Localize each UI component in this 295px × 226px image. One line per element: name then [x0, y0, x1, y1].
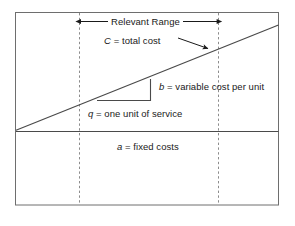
fixed-costs-text: fixed costs — [133, 141, 178, 152]
variable-cost-text: variable cost per unit — [175, 81, 264, 92]
relevant-range-label: Relevant Range — [108, 16, 183, 27]
fixed-costs-label: a = fixed costs — [117, 141, 179, 152]
variable-cost-label: b = variable cost per unit — [159, 81, 264, 92]
total-cost-variable: C — [104, 35, 111, 46]
relevant-range-text: Relevant Range — [111, 16, 180, 27]
cost-function-diagram: Relevant Range C = total cost b = variab… — [0, 0, 295, 226]
total-cost-label: C = total cost — [104, 35, 160, 46]
total-cost-text: total cost — [122, 35, 161, 46]
one-unit-label: q = one unit of service — [88, 108, 182, 119]
slope-triangle — [97, 79, 151, 101]
total-cost-leader-line — [178, 38, 208, 49]
one-unit-text: one unit of service — [104, 108, 182, 119]
